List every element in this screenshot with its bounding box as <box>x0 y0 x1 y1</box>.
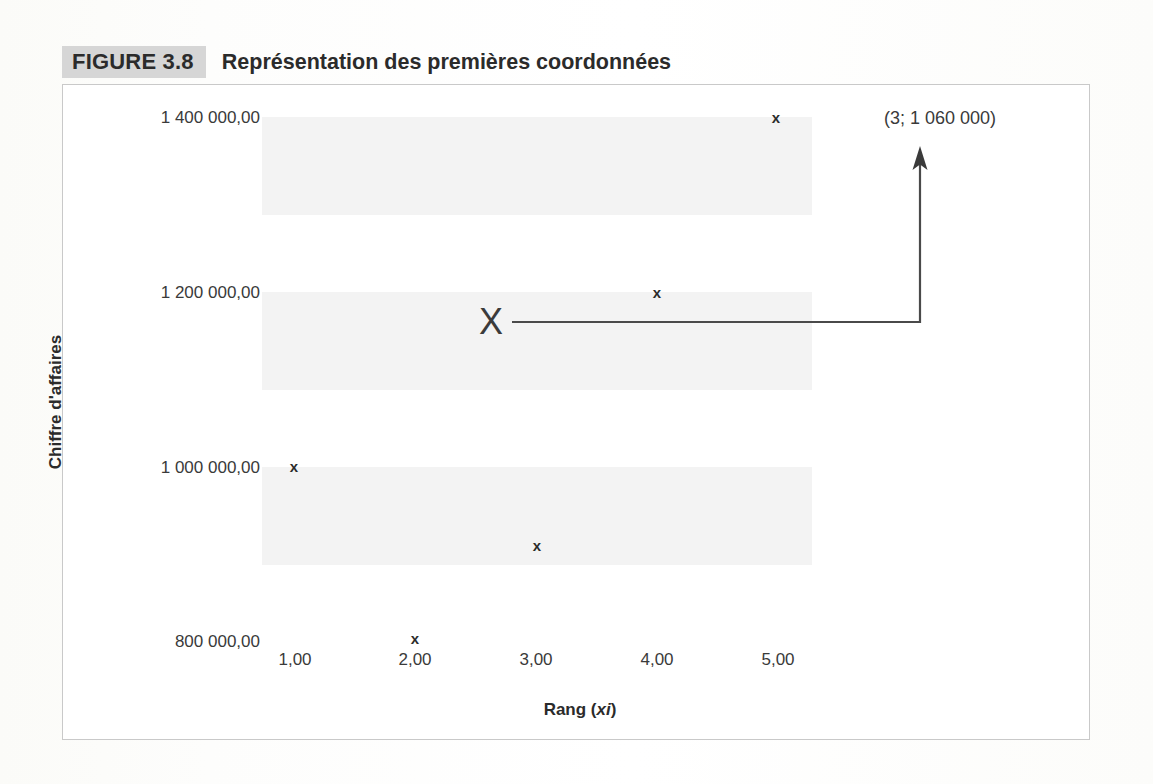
figure-title: Représentation des premières coordonnées <box>206 46 671 78</box>
figure-frame <box>62 84 1090 740</box>
figure-number-badge: FIGURE 3.8 <box>62 46 206 78</box>
figure-header: FIGURE 3.8 Représentation des premières … <box>62 46 671 78</box>
